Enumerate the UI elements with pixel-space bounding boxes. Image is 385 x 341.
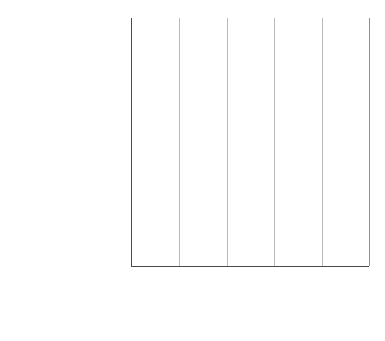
x-axis-tick-labels	[131, 272, 368, 286]
category-label	[0, 111, 128, 142]
legend-item-cost-effective[interactable]	[173, 313, 184, 320]
category-label	[0, 18, 128, 49]
legend-swatch-icon	[173, 313, 180, 320]
category-label	[0, 49, 128, 80]
x-axis-tick-marks	[131, 266, 368, 271]
stacked-bar-chart	[0, 0, 385, 341]
category-axis-labels	[0, 18, 128, 266]
bar-rows	[132, 18, 369, 266]
category-label	[0, 80, 128, 111]
legend-swatch-icon	[202, 313, 209, 320]
category-label	[0, 173, 128, 204]
category-label	[0, 142, 128, 173]
plot-area	[131, 18, 369, 266]
gridline	[369, 18, 370, 266]
category-label	[0, 204, 128, 235]
category-label	[0, 235, 128, 266]
plot-wrapper	[0, 0, 385, 275]
legend-item-not-cost-effective[interactable]	[202, 313, 213, 320]
chart-legend	[0, 313, 385, 320]
